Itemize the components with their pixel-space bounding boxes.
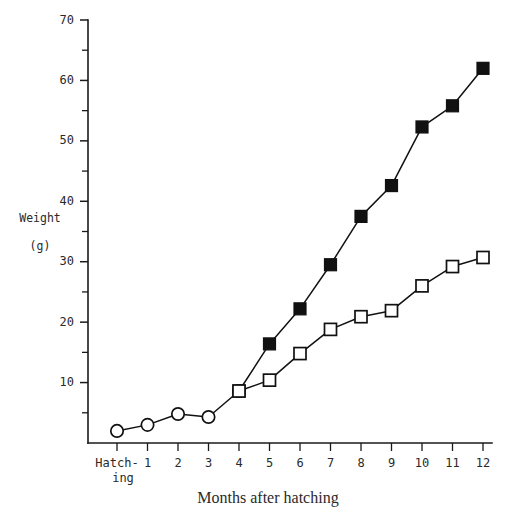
data-point-open-square [477, 251, 489, 263]
x-tick-labels: Hatch-ing123456789101112 [95, 456, 490, 485]
x-tick-label: 4 [235, 456, 242, 470]
data-point-open-square [325, 323, 337, 335]
x-tick-label: 3 [205, 456, 212, 470]
y-tick-label: 20 [60, 315, 74, 329]
x-axis-title: Months after hatching [197, 489, 338, 507]
data-point-filled-square [294, 303, 306, 315]
y-tick-label: 70 [60, 13, 74, 27]
y-tick-label: 50 [60, 133, 74, 147]
y-tick-label: 60 [60, 73, 74, 87]
chart-page: 10203040506070 Hatch-ing123456789101112 … [0, 0, 505, 518]
y-tick-label: 40 [60, 194, 74, 208]
series-layer [111, 62, 489, 437]
data-point-filled-square [416, 121, 428, 133]
data-point-open-square [355, 311, 367, 323]
data-point-open-square [264, 374, 276, 386]
data-point-filled-square [264, 338, 276, 350]
y-major-ticks [80, 20, 88, 383]
y-axis-title: Weight (g) [19, 211, 61, 253]
x-tick-label: 7 [327, 456, 334, 470]
y-axis-title-line2: (g) [30, 239, 51, 253]
series-polyline [239, 257, 483, 391]
x-tick-label: 2 [174, 456, 181, 470]
y-axis-title-line1: Weight [19, 211, 61, 225]
data-point-open-square [386, 305, 398, 317]
data-point-filled-square [477, 62, 489, 74]
y-minor-ticks [82, 50, 88, 413]
x-tick-label: 8 [357, 456, 364, 470]
x-tick-label: Hatch- [95, 456, 138, 470]
x-ticks [117, 443, 483, 451]
data-point-filled-square [355, 210, 367, 222]
x-tick-label: 12 [476, 456, 490, 470]
series-filled-square-series [233, 62, 489, 397]
x-axis-group: Hatch-ing123456789101112 [88, 443, 492, 485]
data-point-filled-square [386, 180, 398, 192]
data-point-open-square [233, 385, 245, 397]
x-tick-label: 1 [144, 456, 151, 470]
y-tick-label: 10 [60, 375, 74, 389]
data-point-open-circle [202, 411, 214, 423]
y-tick-label: 30 [60, 254, 74, 268]
data-point-filled-square [447, 100, 459, 112]
y-axis-group: 10203040506070 [60, 13, 88, 444]
series-open-circle-series [111, 385, 245, 437]
data-point-open-circle [141, 419, 153, 431]
data-point-open-circle [172, 408, 184, 420]
data-point-filled-square [325, 259, 337, 271]
x-tick-label: 9 [388, 456, 395, 470]
y-tick-labels: 10203040506070 [60, 13, 74, 390]
x-tick-label: 10 [415, 456, 429, 470]
data-point-open-square [447, 261, 459, 273]
series-open-square-series [233, 251, 489, 397]
data-point-open-circle [111, 425, 123, 437]
x-tick-label: 6 [296, 456, 303, 470]
growth-chart: 10203040506070 Hatch-ing123456789101112 … [0, 0, 505, 518]
x-tick-label: 11 [445, 456, 459, 470]
x-tick-label: 5 [266, 456, 273, 470]
data-point-open-square [416, 280, 428, 292]
data-point-open-square [294, 348, 306, 360]
x-tick-label-second-line: ing [112, 471, 134, 485]
